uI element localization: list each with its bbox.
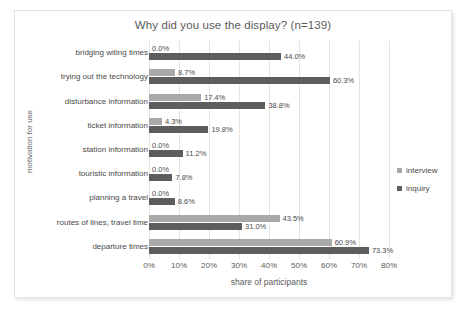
category-label: bridging witing times: [35, 48, 148, 58]
category-label: station information: [35, 145, 148, 155]
bar-value-label: 60.9%: [335, 239, 356, 246]
category-label: routes of lines, travel time: [35, 218, 148, 228]
bar-group: 43.5%31.0%: [149, 215, 389, 231]
bar-group: 17.4%38.8%: [149, 94, 389, 110]
bar-inquiry: [149, 126, 208, 133]
chart-legend: interviewinquiry: [397, 166, 453, 202]
category-label: disturbance information: [35, 97, 148, 107]
bar-value-label: 11.2%: [186, 150, 207, 157]
bar-inquiry: [149, 247, 369, 254]
bar-value-label: 44.0%: [284, 53, 305, 60]
category-label: trying out the technology: [35, 72, 148, 82]
bar-value-label: 4.3%: [165, 118, 182, 125]
bar-value-label: 19.8%: [211, 126, 232, 133]
bar-value-label: 38.8%: [268, 102, 289, 109]
bar-value-label: 0.0%: [152, 45, 169, 52]
x-axis-title: share of participants: [149, 277, 389, 287]
bar-interview: [149, 94, 201, 101]
bar-group: 0.0%44.0%: [149, 45, 389, 61]
bar-group: 8.7%60.3%: [149, 69, 389, 85]
bar-inquiry: [149, 198, 175, 205]
bar-inquiry: [149, 77, 330, 84]
bar-value-label: 8.7%: [178, 69, 195, 76]
x-tick-label: 80%: [381, 261, 397, 270]
category-axis-labels: bridging witing timestrying out the tech…: [35, 41, 148, 259]
bar-inquiry: [149, 53, 281, 60]
bar-inquiry: [149, 150, 183, 157]
legend-label: inquiry: [406, 184, 430, 193]
category-label: touristic information: [35, 169, 148, 179]
legend-swatch-icon: [397, 186, 402, 191]
legend-label: interview: [406, 166, 438, 175]
category-label: ticket information: [35, 121, 148, 131]
bar-value-label: 60.3%: [333, 77, 354, 84]
bar-value-label: 0.0%: [152, 166, 169, 173]
bar-value-label: 43.5%: [283, 215, 304, 222]
bar-value-label: 31.0%: [245, 223, 266, 230]
gridline: [389, 41, 390, 259]
plot-area: 0.0%44.0%8.7%60.3%17.4%38.8%4.3%19.8%0.0…: [149, 41, 389, 259]
bar-interview: [149, 69, 175, 76]
category-label: planning a travel: [35, 193, 148, 203]
x-tick-label: 60%: [321, 261, 337, 270]
x-tick-label: 50%: [291, 261, 307, 270]
legend-item-inquiry[interactable]: inquiry: [397, 184, 453, 193]
bar-interview: [149, 118, 162, 125]
bar-value-label: 0.0%: [152, 190, 169, 197]
x-tick-label: 40%: [261, 261, 277, 270]
bar-group: 0.0%7.8%: [149, 166, 389, 182]
bar-group: 60.9%73.3%: [149, 239, 389, 255]
y-axis-title: motivation for use: [25, 82, 34, 202]
bar-interview: [149, 215, 280, 222]
bar-group: 4.3%19.8%: [149, 118, 389, 134]
bar-value-label: 8.6%: [178, 198, 195, 205]
x-tick-label: 0%: [143, 261, 155, 270]
bar-value-label: 17.4%: [204, 94, 225, 101]
bar-group: 0.0%11.2%: [149, 142, 389, 158]
x-tick-label: 70%: [351, 261, 367, 270]
bar-inquiry: [149, 223, 242, 230]
plot-wrapper: motivation for use bridging witing times…: [15, 41, 453, 299]
legend-swatch-icon: [397, 168, 402, 173]
chart-container: Why did you use the display? (n=139) mot…: [14, 10, 452, 298]
x-tick-label: 20%: [201, 261, 217, 270]
bar-group: 0.0%8.6%: [149, 190, 389, 206]
bar-interview: [149, 239, 332, 246]
bar-value-label: 7.8%: [175, 174, 192, 181]
x-tick-label: 10%: [171, 261, 187, 270]
legend-item-interview[interactable]: interview: [397, 166, 453, 175]
x-axis-tick-labels: 0%10%20%30%40%50%60%70%80%: [149, 261, 389, 275]
bar-value-label: 73.3%: [372, 247, 393, 254]
bar-inquiry: [149, 102, 265, 109]
bar-inquiry: [149, 174, 172, 181]
x-tick-label: 30%: [231, 261, 247, 270]
chart-title: Why did you use the display? (n=139): [15, 19, 451, 31]
category-label: departure times: [35, 242, 148, 252]
bar-value-label: 0.0%: [152, 142, 169, 149]
